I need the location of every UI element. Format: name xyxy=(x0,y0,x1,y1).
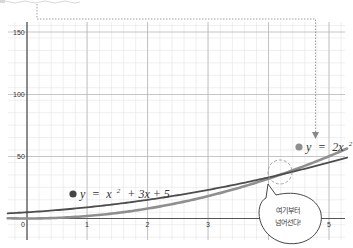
bubble-text-line2: 넘어선다! xyxy=(275,218,302,227)
x-tick-3: 3 xyxy=(206,221,210,228)
x-tick-0: 0 xyxy=(21,221,25,228)
x-tick-2: 2 xyxy=(146,221,150,228)
bubble-text-line1: 여기부터 xyxy=(276,206,300,215)
curve2-legend-dot xyxy=(295,143,302,150)
corner-mark xyxy=(0,0,5,3)
y-tick-100: 100 xyxy=(13,91,25,98)
chart: 150 100 50 0 1 2 3 5 y = 2x 2 y = x 2 + … xyxy=(0,0,353,248)
curve2-label: y = 2x 2 xyxy=(305,136,353,155)
curve1-label: y = x 2 + 3x + 5 xyxy=(79,178,170,202)
x-tick-5: 5 xyxy=(327,221,331,228)
curve1-legend-dot xyxy=(69,190,76,197)
y-tick-50: 50 xyxy=(17,153,25,160)
x-tick-1: 1 xyxy=(85,221,89,228)
dotted-arrow-line xyxy=(37,4,316,133)
wavy-decoration xyxy=(0,1,80,3)
y-tick-150: 150 xyxy=(13,29,25,36)
